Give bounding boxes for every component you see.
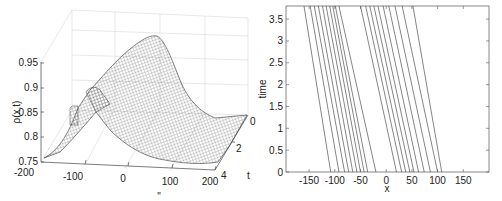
y-tick: 1.5 xyxy=(269,101,283,112)
z-tick: 0.75 xyxy=(19,156,39,167)
y-tick: 3.5 xyxy=(269,14,283,25)
trajectory-line xyxy=(413,6,442,172)
y-axis-label: time xyxy=(257,79,268,98)
x-tick: -100 xyxy=(325,175,345,186)
y-tick: 0 xyxy=(277,167,283,178)
z-tick: 0.9 xyxy=(24,82,38,93)
x-tick: -200 xyxy=(14,167,34,178)
trajectory-line xyxy=(304,6,331,172)
t-axis-label: t xyxy=(247,170,250,181)
trajectory-lines xyxy=(304,6,442,172)
x-axis-label: " xyxy=(157,191,161,201)
trajectory-line xyxy=(330,6,361,172)
x-tick: 150 xyxy=(455,175,472,186)
z-axis-label: ρ(x,t) xyxy=(11,101,22,124)
t-tick: 2 xyxy=(236,143,242,154)
figure: 0.95 0.9 0.85 0.8 0.75 ρ(x,t) -200 -100 … xyxy=(0,0,502,201)
x-tick: 100 xyxy=(162,176,179,187)
x-tick: -100 xyxy=(63,171,83,182)
trajectory-line xyxy=(318,6,348,172)
trajectory-line xyxy=(389,6,424,172)
surface-plot: 0.95 0.9 0.85 0.8 0.75 ρ(x,t) -200 -100 … xyxy=(11,10,256,201)
trajectory-line xyxy=(383,6,418,172)
x-tick: 100 xyxy=(429,175,446,186)
y-tick: 2 xyxy=(277,79,283,90)
trajectory-plot: 00.511.522.533.5 -150-100-50050100150 ti… xyxy=(257,6,489,194)
y-tick: 1 xyxy=(277,123,283,134)
trajectory-line xyxy=(339,6,376,172)
trajectory-line xyxy=(326,6,357,172)
t-tick: 4 xyxy=(221,170,227,181)
y-tick: 2.5 xyxy=(269,57,283,68)
z-tick: 0.8 xyxy=(24,131,38,142)
x-tick: 0 xyxy=(120,173,126,184)
x-tick: -150 xyxy=(299,175,319,186)
z-tick: 0.95 xyxy=(19,57,39,68)
x-tick: -50 xyxy=(353,175,368,186)
y-tick: 0.5 xyxy=(269,145,283,156)
trajectory-line xyxy=(402,6,437,172)
x-tick: 200 xyxy=(202,176,219,187)
trajectory-line xyxy=(374,6,410,172)
y-tick: 3 xyxy=(277,35,283,46)
x-tick: 50 xyxy=(406,175,418,186)
trajectory-line xyxy=(361,6,397,172)
x-axis-label: x xyxy=(385,183,390,194)
trajectory-line xyxy=(310,6,339,172)
t-tick: 0 xyxy=(250,116,256,127)
